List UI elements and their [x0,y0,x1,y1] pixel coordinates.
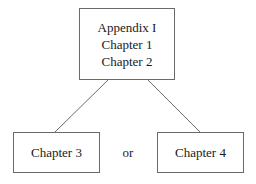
chapter-3-node: Chapter 3 [13,132,100,173]
chapter-3-label: Chapter 3 [31,144,82,161]
or-label: or [120,145,136,161]
top-node: Appendix I Chapter 1 Chapter 2 [79,8,175,80]
top-node-line-1: Appendix I [98,19,157,36]
line-to-chapter-4 [148,80,200,132]
chapter-4-label: Chapter 4 [175,144,226,161]
chapter-4-node: Chapter 4 [157,132,244,173]
top-node-line-3: Chapter 2 [102,53,153,70]
top-node-line-2: Chapter 1 [102,36,153,53]
line-to-chapter-3 [55,80,108,132]
